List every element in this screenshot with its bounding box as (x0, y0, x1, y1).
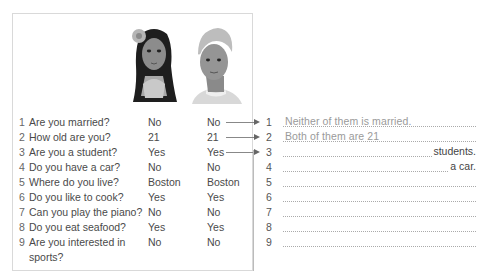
question-text: Do you eat seafood? (29, 220, 126, 235)
sentence-ending: students. (432, 144, 476, 159)
question-text: How old are you? (29, 130, 111, 145)
answer-b: No (207, 235, 220, 250)
dotted-line (283, 246, 476, 247)
question-number: 9 (19, 235, 28, 250)
divider (253, 150, 254, 271)
example-answer: Both of them are 21 (285, 129, 379, 144)
woman-portrait-icon (127, 26, 181, 104)
answer-number: 3 (266, 145, 276, 160)
dotted-line (283, 216, 476, 217)
answer-b: Yes (207, 190, 224, 205)
answer-number: 7 (266, 205, 276, 220)
answer-b: Boston (207, 175, 240, 190)
answer-b: Yes (207, 145, 224, 160)
arrow-right-icon (226, 122, 258, 123)
dotted-line (283, 231, 476, 232)
question-number: 1 (19, 115, 28, 130)
dotted-line (283, 186, 476, 187)
answer-a: 21 (148, 130, 160, 145)
answer-a: Boston (148, 175, 181, 190)
answer-a: No (148, 235, 161, 250)
answer-number: 1 (266, 115, 276, 130)
question-text: sports? (29, 250, 63, 265)
sentence-ending: a car. (449, 159, 476, 174)
question-number: 5 (19, 175, 28, 190)
answer-line[interactable]: 9 (266, 235, 476, 250)
question-number: 3 (19, 145, 28, 160)
answer-a: No (148, 205, 161, 220)
answer-number: 5 (266, 175, 276, 190)
answer-line[interactable]: 8 (266, 220, 476, 235)
answer-b: 21 (207, 130, 219, 145)
question-number: 2 (19, 130, 28, 145)
answer-line[interactable]: 1 Neither of them is married. (266, 115, 476, 130)
answer-line[interactable]: 7 (266, 205, 476, 220)
answer-line[interactable]: 5 (266, 175, 476, 190)
answer-a: Yes (148, 190, 165, 205)
answer-line[interactable]: 3 students. (266, 145, 476, 160)
answer-b: No (207, 160, 220, 175)
answer-a: Yes (148, 220, 165, 235)
answer-number: 4 (266, 160, 276, 175)
dotted-line (283, 201, 476, 202)
answer-line[interactable]: 6 (266, 190, 476, 205)
answer-number: 8 (266, 220, 276, 235)
answer-line[interactable]: 4 a car. (266, 160, 476, 175)
answer-b: No (207, 115, 220, 130)
question-number: 4 (19, 160, 28, 175)
question-text: Are you married? (29, 115, 110, 130)
answer-number: 6 (266, 190, 276, 205)
question-text: Where do you live? (29, 175, 119, 190)
dotted-line (283, 171, 476, 172)
question-number: 7 (19, 205, 28, 220)
answer-a: No (148, 115, 161, 130)
question-number: 6 (19, 190, 28, 205)
answer-a: Yes (148, 145, 165, 160)
arrow-right-icon (226, 137, 258, 138)
answer-b: No (207, 205, 220, 220)
answer-number: 9 (266, 235, 276, 250)
question-text: Can you play the piano? (29, 205, 142, 220)
answer-number: 2 (266, 130, 276, 145)
question-text: Are you interested in (29, 235, 125, 250)
example-answer: Neither of them is married. (285, 114, 411, 129)
man-portrait-icon (186, 24, 246, 106)
question-text: Do you have a car? (29, 160, 120, 175)
question-number: 8 (19, 220, 28, 235)
answer-line[interactable]: 2 Both of them are 21 (266, 130, 476, 145)
question-text: Are you a student? (29, 145, 117, 160)
question-text: Do you like to cook? (29, 190, 124, 205)
answer-b: Yes (207, 220, 224, 235)
answer-a: No (148, 160, 161, 175)
